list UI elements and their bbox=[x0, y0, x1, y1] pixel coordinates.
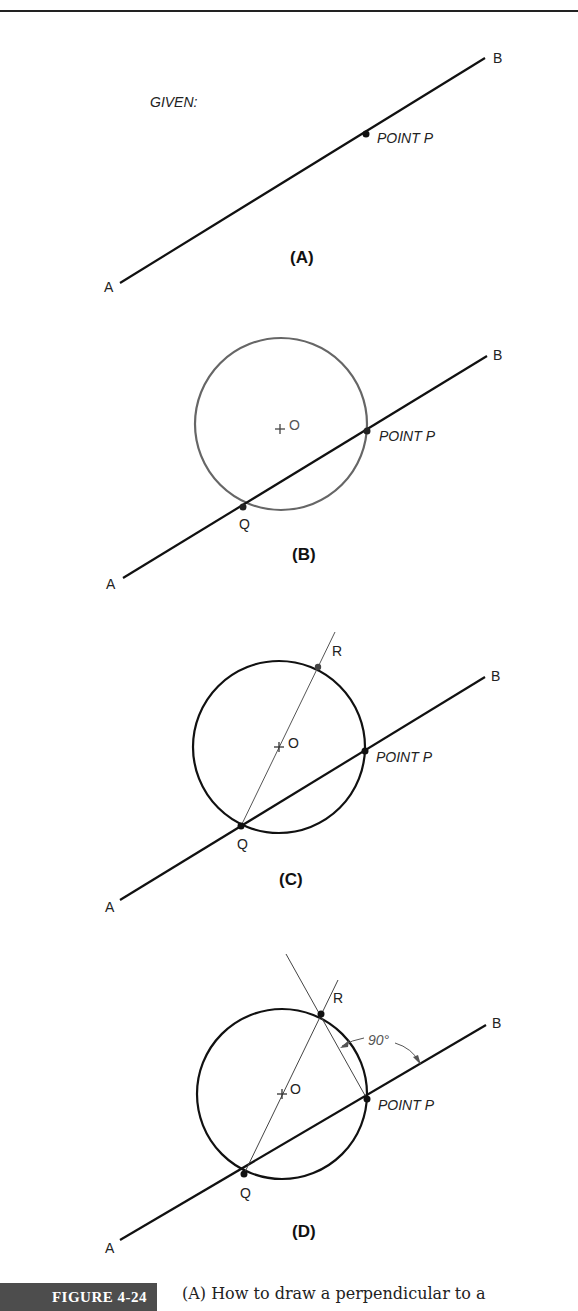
figure-number-tag: FIGURE 4-24 bbox=[0, 1283, 157, 1311]
point-p-label: POINT P bbox=[379, 428, 436, 444]
point-q-label: Q bbox=[237, 836, 248, 852]
center-o-label: O bbox=[288, 735, 299, 751]
center-mark bbox=[277, 1089, 287, 1099]
point-p bbox=[364, 1096, 371, 1103]
point-p-label: POINT P bbox=[378, 1097, 435, 1113]
end-a-label: A bbox=[106, 576, 116, 592]
panel-a: GIVEN: POINT P A B (A) bbox=[104, 50, 502, 295]
point-r-label: R bbox=[333, 990, 343, 1006]
point-p bbox=[362, 748, 369, 755]
point-p bbox=[364, 428, 371, 435]
line-ab bbox=[120, 1025, 486, 1240]
point-r-label: R bbox=[332, 643, 342, 659]
given-label: GIVEN: bbox=[150, 94, 198, 110]
point-q bbox=[240, 504, 247, 511]
point-r bbox=[315, 664, 321, 670]
panel-b: O POINT P Q A B (B) bbox=[106, 338, 502, 592]
center-o-label: O bbox=[289, 417, 300, 433]
point-p-label: POINT P bbox=[376, 749, 433, 765]
point-q bbox=[238, 823, 245, 830]
figure-caption: (A) How to draw a perpendicular to a bbox=[182, 1284, 486, 1303]
panel-b-label: (B) bbox=[292, 545, 316, 564]
point-p bbox=[363, 131, 370, 138]
perpendicular-rp bbox=[286, 954, 367, 1099]
center-mark bbox=[274, 742, 284, 752]
arrowhead-icon bbox=[413, 1055, 421, 1065]
angle-label: 90° bbox=[368, 1032, 390, 1048]
center-o-label: O bbox=[290, 1081, 301, 1097]
point-q bbox=[241, 1171, 248, 1178]
point-q-label: Q bbox=[240, 1185, 251, 1201]
point-q-label: Q bbox=[239, 516, 250, 532]
panel-a-label: (A) bbox=[290, 248, 314, 267]
point-r bbox=[318, 1011, 325, 1018]
end-a-label: A bbox=[104, 279, 114, 295]
end-b-label: B bbox=[492, 1015, 501, 1031]
figure-diagram: GIVEN: POINT P A B (A) O POINT P Q A B (… bbox=[0, 0, 578, 1280]
end-a-label: A bbox=[105, 899, 115, 915]
panel-c-label: (C) bbox=[279, 870, 303, 889]
end-b-label: B bbox=[493, 50, 502, 66]
line-ab bbox=[120, 677, 485, 900]
end-b-label: B bbox=[493, 347, 502, 363]
panel-c: O POINT P Q R A B (C) bbox=[105, 632, 500, 915]
point-p-label: POINT P bbox=[377, 130, 434, 146]
circle-o bbox=[195, 338, 367, 510]
center-mark bbox=[275, 424, 285, 434]
panel-d-label: (D) bbox=[292, 1222, 316, 1241]
end-b-label: B bbox=[491, 668, 500, 684]
panel-d: 90° O POINT P Q R A B (D) bbox=[105, 954, 501, 1256]
end-a-label: A bbox=[105, 1240, 115, 1256]
